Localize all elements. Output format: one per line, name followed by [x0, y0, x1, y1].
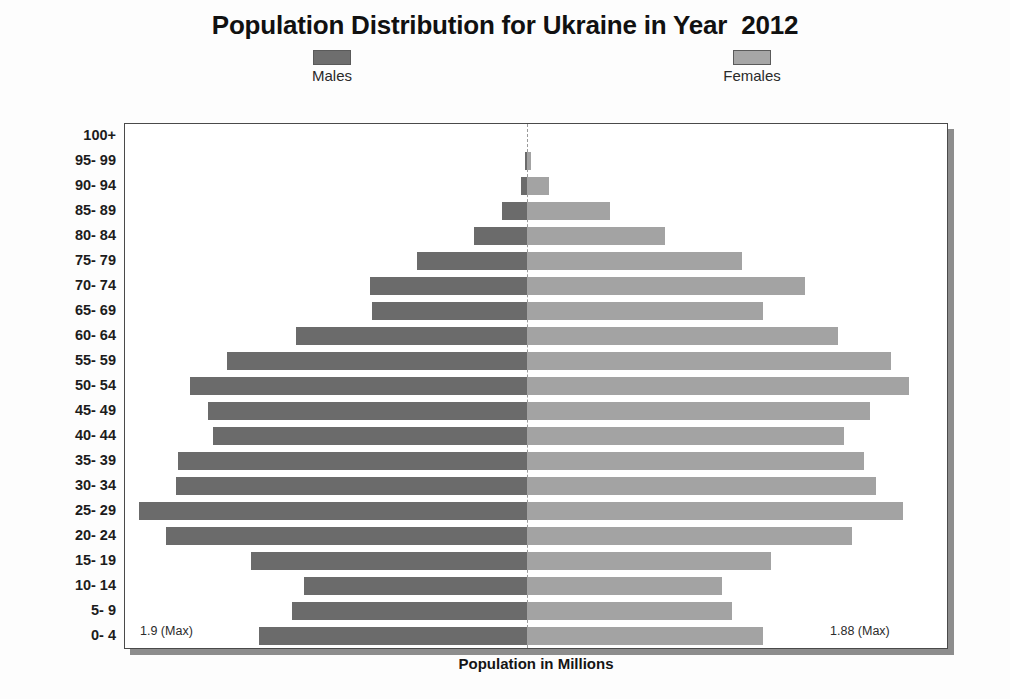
bar-female-6064	[527, 327, 838, 345]
y-tick-label: 20- 24	[0, 528, 116, 542]
y-tick-label: 15- 19	[0, 553, 116, 567]
bar-female-9094	[527, 177, 549, 195]
bar-male-8084	[474, 227, 527, 245]
bar-female-59	[527, 602, 732, 620]
bar-row	[125, 127, 947, 145]
bar-male-5559	[227, 352, 527, 370]
bar-male-4044	[213, 427, 527, 445]
y-tick-label: 65- 69	[0, 303, 116, 317]
bar-male-1519	[251, 552, 527, 570]
bar-male-4549	[208, 402, 527, 420]
bar-female-2529	[527, 502, 903, 520]
bar-female-3034	[527, 477, 876, 495]
bar-row	[125, 602, 947, 620]
bar-row	[125, 352, 947, 370]
bar-female-9599	[527, 152, 531, 170]
y-tick-label: 50- 54	[0, 378, 116, 392]
bar-female-8589	[527, 202, 610, 220]
y-tick-label: 40- 44	[0, 428, 116, 442]
y-tick-label: 10- 14	[0, 578, 116, 592]
bar-female-7074	[527, 277, 805, 295]
legend-item-males: Males	[252, 50, 412, 84]
title-row: Population Distribution for Ukraine in Y…	[0, 10, 1010, 41]
bar-female-2024	[527, 527, 852, 545]
bar-row	[125, 552, 947, 570]
legend-label-females: Females	[672, 68, 832, 84]
bar-row	[125, 202, 947, 220]
x-axis-title: Population in Millions	[124, 655, 948, 672]
y-tick-label: 35- 39	[0, 453, 116, 467]
bar-female-5559	[527, 352, 891, 370]
bar-male-04	[259, 627, 527, 645]
bar-female-1014	[527, 577, 722, 595]
legend: Males Females	[0, 50, 1010, 96]
y-tick-label: 45- 49	[0, 403, 116, 417]
bar-male-5054	[190, 377, 527, 395]
bar-male-59	[292, 602, 527, 620]
bar-row	[125, 252, 947, 270]
bar-male-3034	[176, 477, 527, 495]
bar-male-2529	[139, 502, 527, 520]
y-tick-label: 75- 79	[0, 253, 116, 267]
y-tick-label: 90- 94	[0, 178, 116, 192]
bar-row	[125, 152, 947, 170]
bar-male-3539	[178, 452, 527, 470]
bar-row	[125, 502, 947, 520]
bar-row	[125, 302, 947, 320]
y-tick-label: 85- 89	[0, 203, 116, 217]
chart-page: Population Distribution for Ukraine in Y…	[0, 0, 1010, 699]
male-swatch-icon	[313, 50, 351, 65]
y-tick-label: 100+	[0, 128, 116, 142]
bar-row	[125, 527, 947, 545]
max-label-females: 1.88 (Max)	[830, 624, 890, 638]
bar-row	[125, 177, 947, 195]
y-tick-label: 55- 59	[0, 353, 116, 367]
bar-male-6569	[372, 302, 527, 320]
bar-female-4549	[527, 402, 870, 420]
bar-female-7579	[527, 252, 742, 270]
y-axis: 100+95- 9990- 9485- 8980- 8475- 7970- 74…	[0, 123, 116, 649]
y-tick-label: 60- 64	[0, 328, 116, 342]
bar-row	[125, 327, 947, 345]
bar-male-6064	[296, 327, 527, 345]
bar-female-3539	[527, 452, 864, 470]
bar-male-2024	[166, 527, 527, 545]
y-tick-label: 30- 34	[0, 478, 116, 492]
y-tick-label: 95- 99	[0, 153, 116, 167]
y-tick-label: 0- 4	[0, 628, 116, 642]
y-tick-label: 5- 9	[0, 603, 116, 617]
bar-male-7579	[417, 252, 527, 270]
bar-row	[125, 402, 947, 420]
bar-row	[125, 577, 947, 595]
y-tick-label: 80- 84	[0, 228, 116, 242]
bar-row	[125, 227, 947, 245]
bar-row	[125, 277, 947, 295]
bar-row	[125, 427, 947, 445]
bar-row	[125, 477, 947, 495]
bar-female-4044	[527, 427, 844, 445]
max-label-males: 1.9 (Max)	[140, 624, 193, 638]
bar-male-1014	[304, 577, 527, 595]
bar-female-8084	[527, 227, 665, 245]
plot-area	[124, 123, 948, 649]
bar-male-7074	[370, 277, 527, 295]
bar-female-1519	[527, 552, 771, 570]
female-swatch-icon	[733, 50, 771, 65]
bar-female-04	[527, 627, 763, 645]
bar-female-5054	[527, 377, 909, 395]
bar-male-8589	[502, 202, 527, 220]
legend-item-females: Females	[672, 50, 832, 84]
bar-row	[125, 627, 947, 645]
y-tick-label: 25- 29	[0, 503, 116, 517]
bar-row	[125, 377, 947, 395]
legend-label-males: Males	[252, 68, 412, 84]
bar-female-6569	[527, 302, 763, 320]
page-title: Population Distribution for Ukraine in Y…	[212, 10, 798, 41]
bar-row	[125, 452, 947, 470]
y-tick-label: 70- 74	[0, 278, 116, 292]
